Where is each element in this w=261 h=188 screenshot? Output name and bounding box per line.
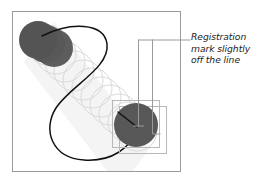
callout-annotation-text: Registration mark slightly off the line [191, 31, 261, 66]
dark-mark-1 [19, 21, 57, 59]
callout-line-1: Registration [191, 31, 261, 43]
callout-line-2: mark slightly [191, 43, 261, 55]
callout-line-3: off the line [191, 54, 261, 66]
dark-mark-bottom-right [114, 103, 158, 147]
registration-mark-figure [0, 0, 261, 188]
